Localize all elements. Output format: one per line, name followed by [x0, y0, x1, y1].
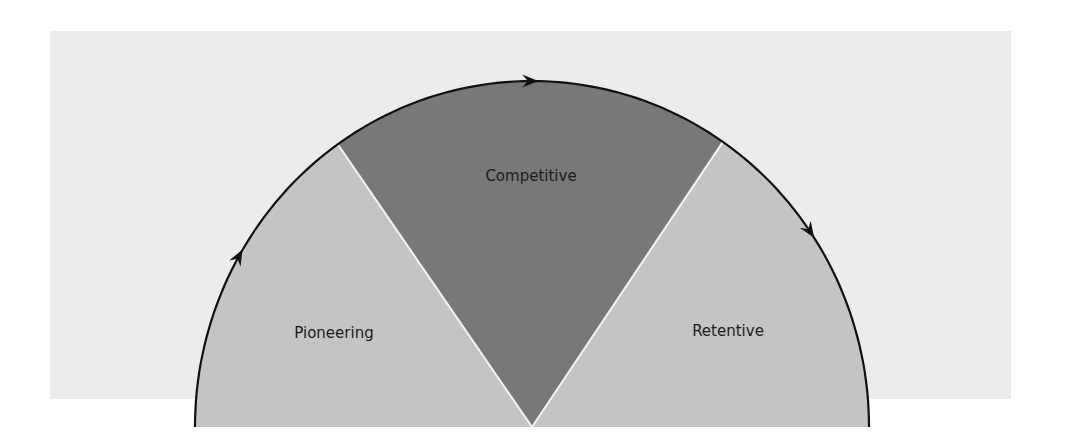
phase-label-retentive: Retentive: [692, 322, 764, 340]
phase-label-competitive: Competitive: [485, 167, 576, 185]
phase-label-pioneering: Pioneering: [294, 324, 373, 342]
cycle-diagram: Pioneering Competitive Retentive: [0, 0, 1069, 439]
